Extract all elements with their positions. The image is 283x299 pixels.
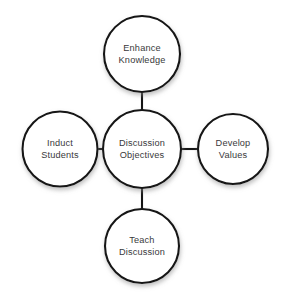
node-circle-teach-discussion[interactable]: [105, 209, 179, 283]
node-circle-enhance-knowledge[interactable]: [104, 16, 180, 92]
diagram-svg: [0, 0, 283, 299]
node-circle-discussion-objectives[interactable]: [103, 110, 181, 188]
node-circle-develop-values[interactable]: [198, 114, 268, 184]
diagram-canvas: Enhance Knowledge Develop Values Teach D…: [0, 0, 283, 299]
nodes-layer: [23, 16, 269, 283]
node-circle-induct-students[interactable]: [23, 112, 98, 187]
